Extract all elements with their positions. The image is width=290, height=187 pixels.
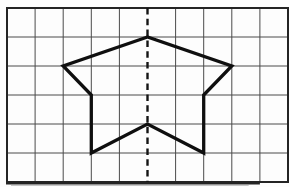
figure-svg <box>0 0 290 187</box>
worksheet-figure <box>0 0 290 187</box>
figure-background <box>0 0 290 187</box>
